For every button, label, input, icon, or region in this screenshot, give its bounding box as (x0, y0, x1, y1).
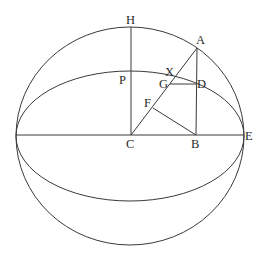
equator-ellipse (16, 71, 244, 201)
line-FB (153, 108, 196, 135)
label-P: P (119, 73, 126, 87)
label-H: H (126, 13, 135, 27)
label-C: C (126, 137, 134, 151)
line-CA (131, 48, 197, 135)
label-G: G (159, 77, 168, 91)
label-E: E (245, 129, 253, 143)
line-AB (196, 48, 197, 135)
label-F: F (144, 96, 151, 110)
label-A: A (196, 33, 205, 47)
diagram-canvas: H A X P G D F C B E (0, 0, 265, 255)
sphere-diagram: H A X P G D F C B E (0, 0, 265, 255)
sphere-outline (16, 27, 244, 245)
label-B: B (191, 137, 199, 151)
label-D: D (197, 77, 206, 91)
